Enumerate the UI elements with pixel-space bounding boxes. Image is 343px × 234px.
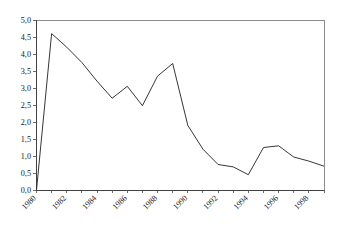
- y-axis-tick-label: 4,0: [21, 50, 31, 59]
- chart-canvas: 0,00,51,01,52,02,53,03,54,04,55,0 198019…: [0, 0, 343, 234]
- y-axis-tick-label: 2,0: [21, 118, 31, 127]
- y-axis-tick-label: 0,5: [21, 169, 31, 178]
- y-axis-tick-label: 3,0: [21, 84, 31, 93]
- line-chart-figure: 0,00,51,01,52,02,53,03,54,04,55,0 198019…: [0, 0, 343, 234]
- y-axis-tick-label: 3,5: [21, 67, 31, 76]
- y-axis-tick-label: 0,0: [21, 186, 31, 195]
- y-axis-tick-label: 1,5: [21, 135, 31, 144]
- y-axis-tick-label: 2,5: [21, 101, 31, 110]
- y-axis-tick-label: 1,0: [21, 152, 31, 161]
- y-axis-tick-label: 5,0: [21, 16, 31, 25]
- y-axis-tick-label: 4,5: [21, 33, 31, 42]
